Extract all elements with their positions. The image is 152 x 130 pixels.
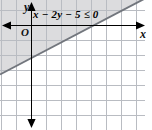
inequality-graph-figure: y x O x − 2y − 5 ≤ 0 — [0, 0, 152, 130]
y-axis-label: y — [24, 1, 29, 13]
origin-label: O — [21, 27, 29, 38]
x-axis-label: x — [140, 28, 146, 40]
inequality-equation-label: x − 2y − 5 ≤ 0 — [33, 9, 99, 20]
